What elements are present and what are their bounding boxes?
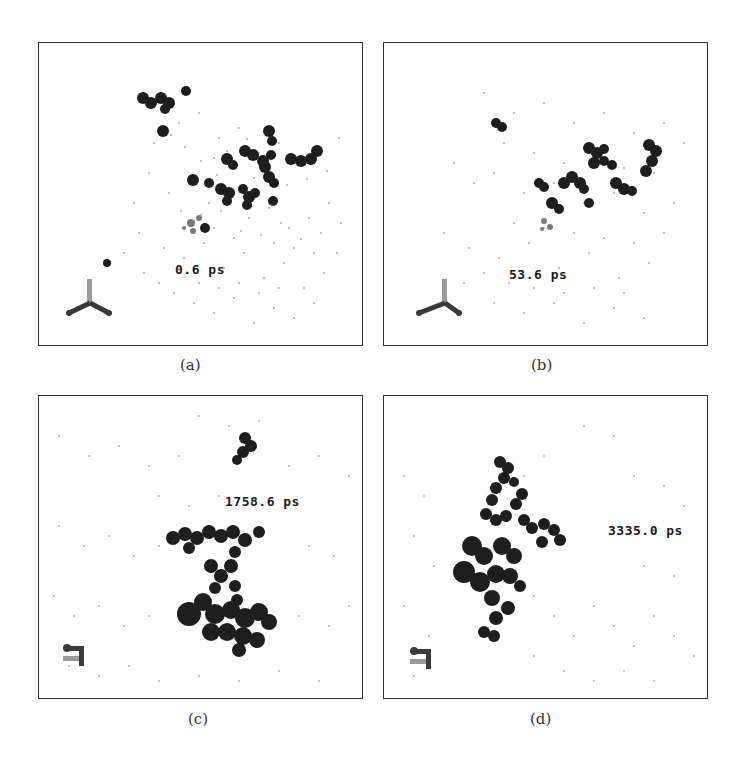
axis-triad-icon bbox=[410, 647, 431, 669]
time-label-b: 53.6 ps bbox=[509, 267, 567, 282]
time-label-d: 3335.0 ps bbox=[608, 523, 683, 538]
axis-triad-icon bbox=[416, 279, 462, 316]
panel-c: 1758.6 ps bbox=[38, 395, 363, 699]
caption-a: (a) bbox=[180, 356, 201, 374]
panel-b: 53.6 ps bbox=[383, 42, 708, 346]
molecule-snapshot-a bbox=[39, 43, 363, 346]
molecule-snapshot-d bbox=[384, 396, 708, 699]
bleed-through-text bbox=[0, 4, 742, 19]
molecule-snapshot-c bbox=[39, 396, 363, 699]
time-label-c: 1758.6 ps bbox=[225, 494, 300, 509]
panel-a: 0.6 ps bbox=[38, 42, 363, 346]
axis-triad-icon bbox=[66, 279, 112, 316]
caption-b: (b) bbox=[531, 356, 552, 374]
panel-d: 3335.0 ps bbox=[383, 395, 708, 699]
axis-triad-icon bbox=[63, 644, 84, 666]
caption-c: (c) bbox=[188, 710, 208, 728]
molecule-snapshot-b bbox=[384, 43, 708, 346]
time-label-a: 0.6 ps bbox=[175, 262, 225, 277]
caption-d: (d) bbox=[530, 710, 551, 728]
